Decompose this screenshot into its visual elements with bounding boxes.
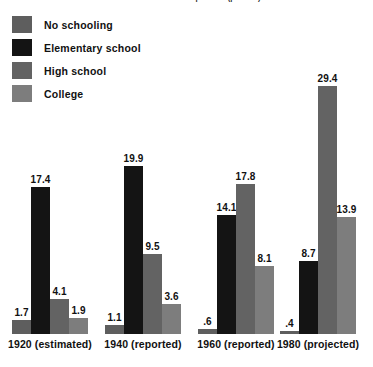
- bar-value-label: 17.8: [236, 171, 256, 182]
- bar-value-label: 8.7: [301, 248, 315, 259]
- x-axis-baseline: [8, 334, 368, 335]
- bar: 8.7: [299, 261, 318, 334]
- bar-value-label: .4: [285, 318, 294, 329]
- bar: 1.7: [12, 320, 31, 334]
- bar-value-label: 13.9: [337, 204, 357, 215]
- bar-value-label: 4.1: [52, 286, 66, 297]
- x-axis-labels: 1920 (estimated)1940 (reported)1960 (rep…: [0, 338, 373, 358]
- bar: 4.1: [50, 299, 69, 334]
- bar-value-label: 29.4: [318, 73, 338, 84]
- bar: 1.9: [69, 318, 88, 334]
- bar: 17.8: [236, 184, 255, 334]
- bar-value-label: 14.1: [217, 202, 237, 213]
- bar-value-label: 1.9: [71, 305, 85, 316]
- bar-value-label: 8.1: [257, 253, 271, 264]
- plot-area: 1.717.44.11.91.119.99.53.6.614.117.88.1.…: [0, 0, 373, 334]
- bar: 13.9: [337, 217, 356, 334]
- bar-chart: Attainment of Adult Population (percent)…: [0, 0, 373, 367]
- bar: 29.4: [318, 86, 337, 334]
- bar: 14.1: [217, 215, 236, 334]
- bar: 19.9: [124, 166, 143, 334]
- bar-value-label: 1.7: [14, 307, 28, 318]
- x-axis-tick-label: 1980 (projected): [254, 338, 373, 350]
- bar-value-label: 19.9: [124, 153, 144, 164]
- bar: 8.1: [255, 266, 274, 334]
- bar-value-label: 3.6: [164, 291, 178, 302]
- bar: 17.4: [31, 187, 50, 334]
- bar: 9.5: [143, 254, 162, 334]
- bar: 3.6: [162, 304, 181, 334]
- bar-value-label: 9.5: [145, 241, 159, 252]
- bar: 1.1: [105, 325, 124, 334]
- bar-value-label: 1.1: [107, 312, 121, 323]
- bar-value-label: .6: [203, 316, 212, 327]
- bar-value-label: 17.4: [31, 174, 51, 185]
